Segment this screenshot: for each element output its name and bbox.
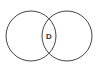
- intersection-label: D: [46, 32, 52, 41]
- venn-diagram: D: [0, 0, 98, 68]
